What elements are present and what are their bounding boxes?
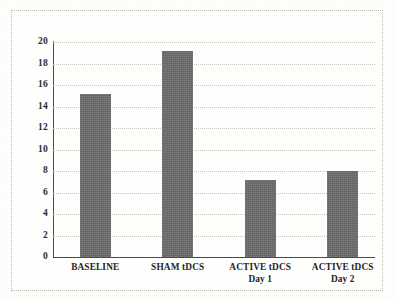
bar	[327, 171, 358, 257]
y-axis-tick-label: 6	[22, 188, 48, 198]
x-axis-tick-label-line: SHAM tDCS	[151, 262, 204, 272]
x-axis-tick-label-line: Day 1	[219, 273, 302, 285]
x-axis-tick-labels: BASELINESHAM tDCSACTIVE tDCSDay 1ACTIVE …	[54, 261, 384, 301]
bar	[80, 94, 111, 257]
x-axis-tick-label-line: ACTIVE tDCS	[312, 262, 374, 272]
plot-area	[54, 42, 384, 257]
x-axis-tick-label: BASELINE	[54, 261, 137, 273]
y-axis-tick-label: 10	[22, 145, 48, 155]
x-axis-tick-label-line: BASELINE	[71, 262, 119, 272]
x-axis-tick-label-line: Day 2	[302, 273, 385, 285]
y-axis-tick-labels: 02468101214161820	[20, 42, 48, 257]
bar	[245, 180, 276, 257]
y-axis-tick-label: 12	[22, 123, 48, 133]
x-axis-tick-label: SHAM tDCS	[137, 261, 220, 273]
y-axis-tick-label: 14	[22, 102, 48, 112]
chart-frame: 02468101214161820 BASELINESHAM tDCSACTIV…	[11, 10, 383, 291]
x-axis-tick-label-line: ACTIVE tDCS	[229, 262, 291, 272]
y-axis-tick-label: 20	[22, 37, 48, 47]
figure-root: 02468101214161820 BASELINESHAM tDCSACTIV…	[0, 0, 395, 301]
y-axis-tick-label: 4	[22, 209, 48, 219]
y-axis-tick-label: 0	[22, 252, 48, 262]
x-axis-tick-label: ACTIVE tDCSDay 1	[219, 261, 302, 286]
y-axis-tick-label: 18	[22, 59, 48, 69]
x-axis-tick-label: ACTIVE tDCSDay 2	[302, 261, 385, 286]
y-axis-tick-label: 16	[22, 80, 48, 90]
y-axis-tick-label: 8	[22, 166, 48, 176]
bar	[162, 51, 193, 257]
y-axis-tick-label: 2	[22, 231, 48, 241]
